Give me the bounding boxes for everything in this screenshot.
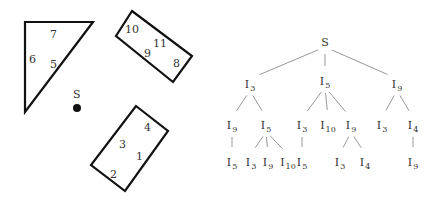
tree-node: S [321,36,329,49]
search-tree: SI3I5I9I9I5I3I10I9I3I4I5I3I9I10I5I3I4I9 [227,36,418,171]
tree-node: I9 [227,119,237,134]
tree-node: I3 [377,119,387,134]
vertex-label: 5 [50,58,57,71]
tree-edge [329,92,345,112]
vertex-label: 3 [119,138,126,151]
tree-node: I9 [392,78,402,93]
diagram-canvas: 7651011984312S SI3I5I9I9I5I3I10I9I3I4I5I… [0,0,441,200]
vertex-label: 6 [29,53,36,66]
vertex-label: 10 [125,23,139,36]
tree-edge [253,95,262,110]
tree-edge [307,92,321,111]
tree-edge [400,95,409,110]
tree-edge [343,137,349,148]
vertex-label: 7 [50,28,57,41]
tree-node: I3 [297,119,307,134]
tree-node: I3 [245,78,255,93]
tree-edge [266,137,267,147]
tree-node: I5 [297,156,307,171]
tree-node: I4 [408,119,418,134]
vertex-label: 4 [144,121,151,134]
start-point-dot [73,104,81,112]
triangle-obstacle [25,22,93,112]
tree-node: I10 [320,119,336,134]
tree-node: I9 [408,156,418,171]
tree-node: I3 [335,156,345,171]
tree-edge [270,136,282,149]
vertex-label: 8 [173,57,180,70]
vertex-label: 2 [110,168,117,181]
tree-edge [386,96,394,111]
tree-edge [354,136,361,147]
start-label: S [73,88,81,101]
tree-node: I5 [227,156,237,171]
tree-node: I3 [246,156,256,171]
obstacle-map: 7651011984312S [25,11,192,191]
tree-edge [255,136,263,147]
tree-node: I5 [261,119,271,134]
vertex-label: 9 [144,47,151,60]
vertex-label: 11 [153,37,167,50]
tree-node: I4 [360,156,370,171]
tree-edge [332,50,388,74]
tree-node: I5 [320,75,330,90]
tree-node: I10 [280,156,296,171]
rectangle-obstacle-bottom [91,106,168,191]
tree-edge [236,95,246,111]
tree-node: I9 [346,119,356,134]
tree-edge [326,93,328,110]
tree-node: I9 [263,156,273,171]
tree-edge [260,50,318,75]
vertex-label: 1 [136,150,143,163]
